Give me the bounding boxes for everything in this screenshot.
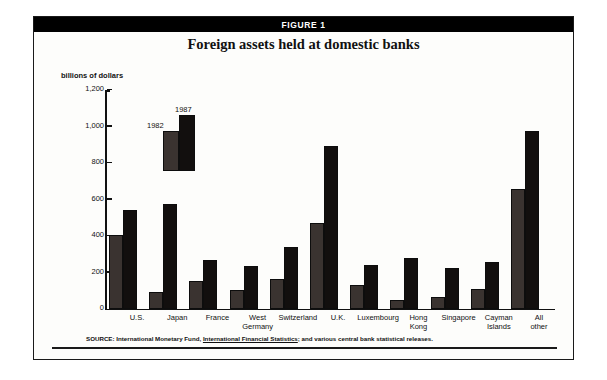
figure-number-label: FIGURE 1 <box>281 20 325 30</box>
bar-1987[interactable] <box>244 266 258 309</box>
page-title: Foreign assets held at domestic banks <box>34 36 573 53</box>
bar-group[interactable] <box>511 83 539 309</box>
source-publication-title: International Financial Statistics <box>203 335 298 342</box>
bar-1982[interactable] <box>390 300 404 309</box>
category-label-line: other <box>510 323 568 332</box>
bar-1987[interactable] <box>485 262 499 309</box>
y-axis-tick-label: 200 <box>91 267 104 276</box>
bar-group[interactable] <box>471 83 499 309</box>
chart-plot-area: 02004006008001,0001,200 U.S.JapanFranceW… <box>61 83 561 317</box>
bar-1982[interactable] <box>431 297 445 309</box>
chart-legend: 1982 1987 <box>155 113 211 171</box>
bar-1987[interactable] <box>203 260 217 309</box>
legend-label-1987: 1987 <box>175 105 192 114</box>
category-label-line: Kong <box>389 323 447 332</box>
bar-1982[interactable] <box>270 279 284 309</box>
y-axis-unit-caption: billions of dollars <box>61 71 123 80</box>
source-suffix: ; and various central bank statistical r… <box>298 335 433 342</box>
bar-group[interactable] <box>230 83 258 309</box>
bar-1982[interactable] <box>230 290 244 309</box>
bar-1987[interactable] <box>163 204 177 309</box>
y-axis-tick-label: 0 <box>100 303 104 312</box>
bar-group[interactable] <box>350 83 378 309</box>
bar-1987[interactable] <box>525 131 539 309</box>
bar-1982[interactable] <box>149 292 163 309</box>
bar-1982[interactable] <box>189 281 203 309</box>
source-note: SOURCE: International Monetary Fund, Int… <box>86 335 433 342</box>
bar-1982[interactable] <box>310 223 324 309</box>
legend-swatch-1982 <box>163 131 179 171</box>
bar-1987[interactable] <box>445 268 459 309</box>
bar-1987[interactable] <box>324 146 338 309</box>
bar-1982[interactable] <box>109 235 123 309</box>
bar-1987[interactable] <box>404 258 418 309</box>
bar-1982[interactable] <box>350 285 364 309</box>
bar-group[interactable] <box>270 83 298 309</box>
category-label-line: Germany <box>229 323 287 332</box>
source-prefix: SOURCE: International Monetary Fund, <box>86 335 203 342</box>
legend-label-1982: 1982 <box>147 121 164 130</box>
figure-frame: FIGURE 1 Foreign assets held at domestic… <box>33 16 574 360</box>
y-axis-tick-label: 600 <box>91 194 104 203</box>
bar-group[interactable] <box>431 83 459 309</box>
y-axis-tick-label: 800 <box>91 157 104 166</box>
x-axis-category-label: Allother <box>510 314 568 331</box>
bar-group[interactable] <box>310 83 338 309</box>
bar-group[interactable] <box>109 83 137 309</box>
bar-1982[interactable] <box>471 289 485 309</box>
y-axis-tick-label: 400 <box>91 230 104 239</box>
bar-group[interactable] <box>390 83 418 309</box>
bar-1987[interactable] <box>284 247 298 309</box>
bar-1982[interactable] <box>511 189 525 309</box>
legend-swatch-1987 <box>179 115 195 171</box>
bar-1987[interactable] <box>364 265 378 309</box>
y-axis-tick-label: 1,000 <box>85 121 104 130</box>
figure-number-banner: FIGURE 1 <box>34 17 573 32</box>
bar-1987[interactable] <box>123 210 137 309</box>
source-divider <box>52 347 557 349</box>
y-axis-tick-label: 1,200 <box>85 84 104 93</box>
